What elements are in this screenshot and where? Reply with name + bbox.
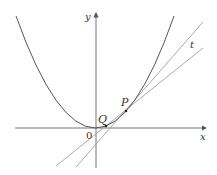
y-axis-label: y: [84, 11, 91, 22]
tangent-label: t: [190, 39, 195, 50]
point-p: [125, 110, 128, 113]
point-q-label: Q: [98, 113, 107, 126]
parabola-curve: [16, 16, 174, 128]
origin-label: 0: [86, 130, 92, 141]
point-p-label: P: [120, 96, 129, 109]
diagram-svg: y x 0 Q P t: [0, 0, 217, 175]
tangent-line: [76, 22, 203, 167]
diagram-canvas: y x 0 Q P t: [0, 0, 217, 175]
x-axis-label: x: [200, 131, 206, 142]
